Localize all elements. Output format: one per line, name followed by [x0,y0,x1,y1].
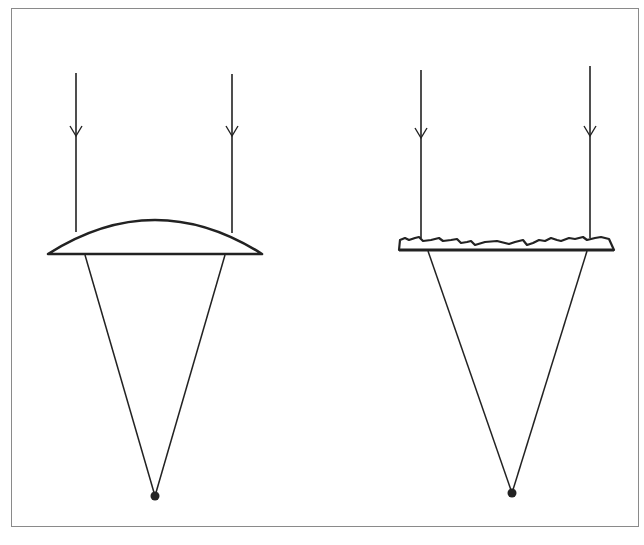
focal-point [508,489,517,498]
refracted-ray [512,251,587,493]
refracted-ray [85,255,155,496]
refracted-ray [428,251,512,493]
convex-lens [48,220,262,254]
focal-point [151,492,160,501]
refracted-ray [155,255,225,496]
convex-lens-panel [48,73,262,501]
fresnel-lens [399,237,614,250]
fresnel-lens-panel [399,66,614,498]
lens-diagram [0,0,644,545]
